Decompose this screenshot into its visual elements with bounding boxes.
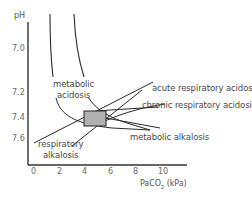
metabolic-alkalosis-line — [100, 117, 160, 128]
x-tick-8: 8 — [133, 168, 138, 176]
y-tick-7-6: 7.6 — [12, 135, 25, 143]
x-tick-10: 10 — [158, 168, 168, 176]
x-tick-4: 4 — [82, 168, 87, 176]
y-tick-7-0: 7.0 — [12, 45, 25, 53]
y-tick-7-4: 7.4 — [12, 114, 25, 122]
x-axis-label-unit: (kPa) — [164, 179, 186, 188]
x-tick-6: 6 — [108, 168, 113, 176]
normal-range-box — [84, 111, 106, 126]
label-respiratory-alkalosis-1: respiratory — [38, 140, 83, 149]
label-metabolic-acidosis-2: acidosis — [57, 91, 90, 100]
x-axis-label-main: PaCO — [140, 179, 161, 188]
x-tick-2: 2 — [57, 168, 62, 176]
acid-base-nomogram: pH 7.0 7.2 7.4 7.6 0 2 4 6 8 10 PaCO2 (k… — [0, 0, 252, 198]
label-metabolic-acidosis-1: metabolic — [53, 80, 94, 89]
x-tick-0: 0 — [31, 168, 36, 176]
label-metabolic-alkalosis: metabolic alkalosis — [130, 133, 209, 142]
label-respiratory-alkalosis-2: alkalosis — [43, 151, 78, 160]
y-tick-7-2: 7.2 — [12, 89, 25, 97]
metabolic-acidosis-curve-right — [74, 14, 84, 77]
diagram-lines — [0, 0, 252, 198]
y-axis-label: pH — [14, 12, 25, 20]
metabolic-acidosis-curve-left — [50, 14, 53, 77]
label-acute-respiratory-acidosis: acute respiratory acidosis — [152, 84, 252, 93]
x-axis-label: PaCO2 (kPa) — [140, 180, 186, 190]
label-chronic-respiratory-acidosis: chronic respiratory acidosis — [142, 101, 252, 110]
